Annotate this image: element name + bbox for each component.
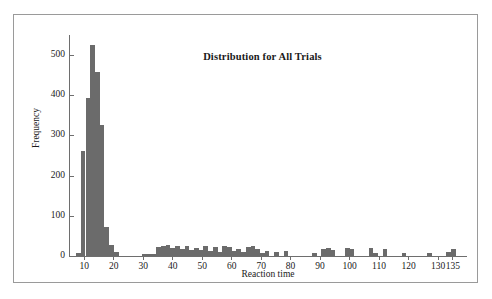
histogram-bar (265, 251, 270, 256)
x-tick-label: 20 (109, 261, 119, 271)
histogram-bars (69, 35, 467, 256)
histogram-bar (350, 249, 355, 256)
y-tick-mark (69, 256, 74, 257)
histogram-bar (451, 249, 456, 256)
y-tick-label: 300 (51, 129, 65, 139)
x-tick-label: 135 (446, 261, 460, 271)
x-tick-mark (379, 256, 380, 260)
y-tick-label: 0 (60, 250, 65, 260)
x-axis-tick: 100 (349, 256, 350, 260)
x-axis-tick: 20 (113, 256, 114, 260)
histogram-bar (383, 249, 388, 256)
x-tick-label: 60 (227, 261, 237, 271)
x-tick-mark (349, 256, 350, 260)
x-tick-label: 30 (138, 261, 148, 271)
x-tick-label: 70 (256, 261, 266, 271)
x-axis-tick: 50 (202, 256, 203, 260)
x-axis-tick: 120 (408, 256, 409, 260)
x-tick-label: 100 (342, 261, 356, 271)
x-axis-tick: 130 (438, 256, 439, 260)
x-axis-tick: 60 (231, 256, 232, 260)
x-tick-label: 120 (401, 261, 415, 271)
x-axis-tick: 90 (320, 256, 321, 260)
x-tick-label: 40 (168, 261, 178, 271)
x-tick-mark (172, 256, 173, 260)
plot-area: Distribution for All Trials Frequency Re… (14, 15, 477, 282)
histogram-bar (427, 253, 432, 256)
x-tick-mark (113, 256, 114, 260)
x-tick-mark (202, 256, 203, 260)
y-tick-label: 400 (51, 89, 65, 99)
y-tick-label: 100 (51, 210, 65, 220)
x-axis-tick: 10 (84, 256, 85, 260)
x-tick-label: 50 (197, 261, 207, 271)
x-tick-mark (261, 256, 262, 260)
x-tick-mark (290, 256, 291, 260)
x-axis-tick: 70 (261, 256, 262, 260)
x-tick-label: 80 (286, 261, 296, 271)
x-tick-label: 110 (372, 261, 386, 271)
x-tick-mark (231, 256, 232, 260)
x-tick-mark (320, 256, 321, 260)
x-axis-tick: 135 (452, 256, 453, 260)
x-tick-mark (84, 256, 85, 260)
histogram-bar (274, 252, 279, 256)
x-axis-tick: 110 (379, 256, 380, 260)
y-tick-label: 200 (51, 170, 65, 180)
histogram-bar (402, 253, 407, 256)
y-tick-label: 500 (51, 49, 65, 59)
histogram-bar (331, 250, 336, 256)
x-axis-tick: 80 (290, 256, 291, 260)
histogram-bar (373, 253, 378, 256)
x-axis-tick: 30 (143, 256, 144, 260)
x-tick-mark (143, 256, 144, 260)
x-tick-mark (408, 256, 409, 260)
figure-frame: Distribution for All Trials Frequency Re… (13, 14, 478, 283)
y-axis-tick: 0 (69, 256, 74, 257)
x-axis-tick: 40 (172, 256, 173, 260)
x-tick-mark (438, 256, 439, 260)
histogram-bar (284, 251, 289, 256)
x-tick-label: 90 (315, 261, 325, 271)
x-tick-label: 130 (431, 261, 445, 271)
x-tick-mark (452, 256, 453, 260)
histogram-bar (312, 253, 317, 256)
y-axis-label: Frequency (31, 68, 41, 188)
histogram-bar (114, 252, 119, 256)
x-tick-label: 10 (79, 261, 89, 271)
